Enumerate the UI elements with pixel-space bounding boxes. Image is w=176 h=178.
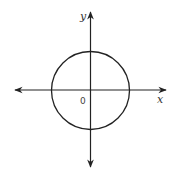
x-axis-label: x bbox=[157, 93, 164, 106]
coordinate-diagram: y x 0 bbox=[0, 0, 176, 178]
y-axis-label: y bbox=[79, 10, 87, 23]
origin-label: 0 bbox=[80, 96, 86, 106]
